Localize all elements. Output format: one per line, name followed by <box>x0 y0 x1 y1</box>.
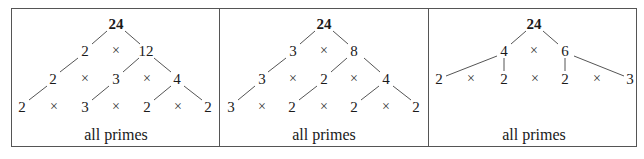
times-symbol: × <box>593 72 601 86</box>
times-symbol: × <box>382 100 390 114</box>
factor-node: 3 <box>289 44 297 59</box>
factor-node: 8 <box>350 44 358 59</box>
times-symbol: × <box>320 100 328 114</box>
factor-node: 2 <box>500 72 508 87</box>
factor-node: 2 <box>81 44 89 59</box>
times-symbol: × <box>530 44 538 58</box>
factor-node: 3 <box>112 72 120 87</box>
panel-1-caption: all primes <box>84 126 148 144</box>
tree-edge <box>92 86 109 100</box>
factor-node: 2 <box>204 100 212 115</box>
factor-node: 2 <box>561 72 569 87</box>
factor-node: 3 <box>258 72 266 87</box>
tree-edge <box>299 86 317 100</box>
tree-edge <box>29 86 47 100</box>
factor-node: 4 <box>173 72 181 87</box>
factor-node: 2 <box>350 100 358 115</box>
factor-node: 2 <box>320 72 328 87</box>
tree-edge <box>268 58 286 72</box>
root-number: 24 <box>527 17 542 32</box>
factor-node: 2 <box>435 72 443 87</box>
factor-node: 2 <box>288 100 296 115</box>
factor-node: 3 <box>227 100 235 115</box>
tree-edge <box>123 58 139 72</box>
root-number: 24 <box>317 17 332 32</box>
factor-node: 12 <box>139 44 154 59</box>
times-symbol: × <box>258 100 266 114</box>
factor-node: 3 <box>626 72 634 87</box>
tree-edge <box>238 86 255 100</box>
tree-edge <box>543 31 558 44</box>
panel-2-caption: all primes <box>292 126 356 144</box>
factor-node: 4 <box>382 72 390 87</box>
tree-edge <box>364 58 380 72</box>
times-symbol: × <box>174 100 182 114</box>
times-symbol: × <box>143 72 151 86</box>
factor-node: 6 <box>561 44 569 59</box>
factor-node: 3 <box>81 100 89 115</box>
tree-edge <box>511 31 526 44</box>
tree-edge <box>154 58 171 72</box>
times-symbol: × <box>289 72 297 86</box>
times-symbol: × <box>81 72 89 86</box>
tree-edge <box>92 31 107 44</box>
tree-edge <box>300 31 315 44</box>
tree-edge <box>184 86 202 100</box>
times-symbol: × <box>50 100 58 114</box>
times-symbol: × <box>467 72 475 86</box>
tree-edge <box>333 31 348 44</box>
root-number: 24 <box>109 17 124 32</box>
times-symbol: × <box>350 72 358 86</box>
times-symbol: × <box>320 44 328 58</box>
tree-edge <box>154 86 171 100</box>
factor-node: 2 <box>49 72 57 87</box>
factor-node: 2 <box>412 100 420 115</box>
factor-node: 2 <box>143 100 151 115</box>
factor-node: 4 <box>500 44 508 59</box>
tree-edge <box>361 86 379 100</box>
tree-edge <box>60 58 78 72</box>
tree-edge <box>393 86 411 100</box>
times-symbol: × <box>112 44 120 58</box>
panel-3-caption: all primes <box>502 126 566 144</box>
times-symbol: × <box>112 100 120 114</box>
factor-node: 2 <box>18 100 26 115</box>
times-symbol: × <box>531 72 539 86</box>
tree-edge <box>331 58 347 72</box>
